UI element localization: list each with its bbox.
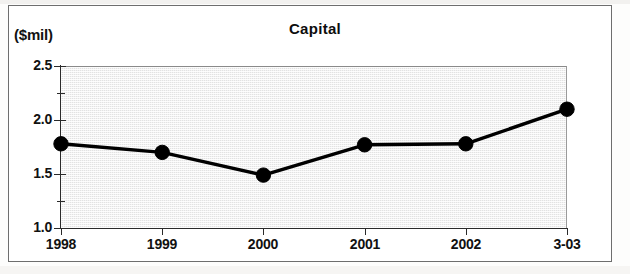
- data-point-marker: [357, 138, 371, 152]
- data-series-overlay: [0, 0, 630, 274]
- data-point-marker: [54, 137, 68, 151]
- data-point-marker: [155, 145, 169, 159]
- data-point-marker: [459, 137, 473, 151]
- data-point-marker: [560, 102, 574, 116]
- data-point-marker: [256, 168, 270, 182]
- capital-series-line: [61, 109, 567, 175]
- figure-root: ($mil) Capital 2.52.01.51.0 199819992000…: [0, 0, 630, 274]
- capital-series-markers: [54, 102, 574, 182]
